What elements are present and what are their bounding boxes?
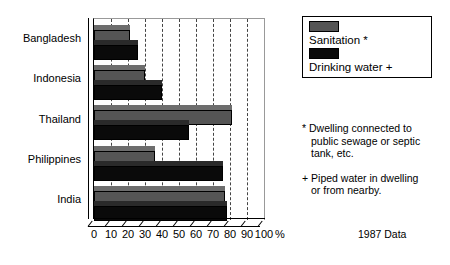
x-tick-label-30: 30 (139, 228, 151, 241)
bar-thailand-water (94, 120, 189, 135)
legend-label-drinking-water: Drinking water + (309, 60, 392, 74)
y-axis-category-labels: BangladeshIndonesiaThailandPhilippinesIn… (0, 18, 84, 223)
footnote-drinking-water: + Piped water in dwelling or from nearby… (302, 172, 444, 197)
footnote-sanitation-line1: * Dwelling connected to (302, 122, 444, 135)
x-axis-unit-label: % (275, 228, 285, 241)
x-tick-label-100: 100 (255, 228, 273, 241)
plot-floor (88, 218, 266, 228)
tick-100 (258, 221, 263, 227)
footnote-sanitation-line2: public sewage or septic (302, 135, 444, 148)
legend-label-sanitation: Sanitation * (309, 33, 368, 47)
bar-front-face (94, 125, 189, 140)
data-year-label: 1987 Data (358, 228, 406, 241)
x-tick-label-40: 40 (156, 228, 168, 241)
bar-front-face (94, 85, 162, 100)
x-tick-label-70: 70 (207, 228, 219, 241)
y-category-label-indonesia: Indonesia (33, 72, 81, 84)
plot-face (93, 18, 265, 219)
sanitation-swatch-icon (309, 21, 339, 32)
x-tick-label-90: 90 (241, 228, 253, 241)
bar-bangladesh-water (94, 40, 138, 55)
drinking-water-swatch-icon (309, 48, 339, 59)
bar-philippines-sanitation (94, 146, 155, 161)
y-category-label-thailand: Thailand (39, 113, 81, 125)
footnote-sanitation: * Dwelling connected to public sewage or… (302, 122, 444, 160)
x-tick-label-50: 50 (173, 228, 185, 241)
plot-region (88, 18, 266, 224)
footnote-water-line2: or from nearby. (302, 184, 444, 197)
axis-floor-back-edge (93, 218, 265, 219)
bar-thailand-sanitation (94, 105, 232, 120)
x-tick-label-20: 20 (122, 228, 134, 241)
x-tick-label-80: 80 (224, 228, 236, 241)
bar-india-water (94, 201, 227, 216)
y-category-label-philippines: Philippines (28, 153, 81, 165)
bar-front-face (94, 45, 138, 60)
x-tick-label-10: 10 (105, 228, 117, 241)
chart-area: BangladeshIndonesiaThailandPhilippinesIn… (0, 0, 292, 265)
legend-item-drinking-water: Drinking water + (309, 48, 425, 75)
x-tick-label-60: 60 (190, 228, 202, 241)
x-tick-label-0: 0 (91, 228, 97, 241)
bar-india-sanitation (94, 186, 225, 201)
y-category-label-india: India (57, 193, 81, 205)
bar-philippines-water (94, 161, 223, 176)
bar-bangladesh-sanitation (94, 25, 130, 40)
bar-indonesia-sanitation (94, 65, 145, 80)
chart-figure: BangladeshIndonesiaThailandPhilippinesIn… (0, 0, 450, 265)
chart-legend: Sanitation * Drinking water + (302, 16, 432, 78)
bar-series-container (94, 19, 272, 220)
footnote-sanitation-line3: tank, etc. (302, 147, 444, 160)
footnote-water-line1: + Piped water in dwelling (302, 172, 444, 185)
y-category-label-bangladesh: Bangladesh (23, 32, 81, 44)
x-axis-tick-labels: 0102030405060708090100 (88, 228, 278, 244)
chart-footnotes: * Dwelling connected to public sewage or… (302, 122, 444, 209)
legend-item-sanitation: Sanitation * (309, 21, 425, 48)
bar-indonesia-water (94, 80, 162, 95)
bar-front-face (94, 166, 223, 181)
